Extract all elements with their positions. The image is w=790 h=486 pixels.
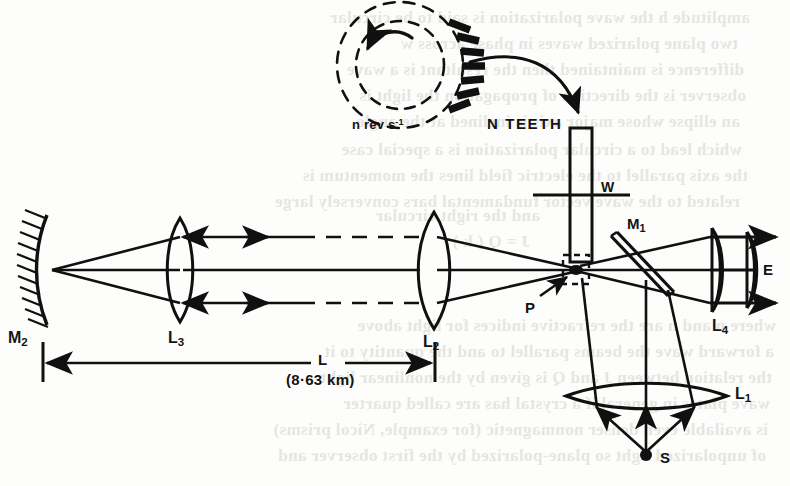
label-lens-2: L2 <box>423 334 439 352</box>
rotation-direction-arrow <box>368 32 412 48</box>
beam-l2-to-p <box>437 237 574 303</box>
light-source-point <box>640 449 652 461</box>
wheel-inner-rim <box>356 21 444 109</box>
label-lens-4: L4 <box>712 318 728 336</box>
label-aperture: P <box>525 300 535 315</box>
beam-long-baseline <box>183 237 420 303</box>
label-wheel: W <box>601 180 614 194</box>
label-wheel-speed: n rev s-1 <box>352 118 404 131</box>
beam-source-to-splitter <box>582 278 694 452</box>
toothed-wheel-face-view <box>337 2 485 128</box>
label-eye: E <box>763 262 773 277</box>
wheel-reference-arrow <box>470 57 578 112</box>
baseline-dimension <box>43 342 435 382</box>
label-source: S <box>660 450 670 465</box>
label-mirror-1: M1 <box>627 216 646 233</box>
label-teeth: N TEETH <box>487 116 562 131</box>
label-baseline: L <box>318 352 327 367</box>
optics-ray-diagram <box>0 0 790 486</box>
label-lens-3: L3 <box>168 330 184 348</box>
label-lens-1: L1 <box>735 386 751 404</box>
mirror-surface <box>37 215 48 325</box>
beam-m2-to-l3 <box>52 237 180 303</box>
label-baseline-value: (8·63 km) <box>286 372 355 387</box>
concave-mirror-m2 <box>17 210 48 327</box>
label-mirror-2: M2 <box>8 330 28 348</box>
figure-page: amplitude h the wave polarization is sai… <box>0 0 790 486</box>
